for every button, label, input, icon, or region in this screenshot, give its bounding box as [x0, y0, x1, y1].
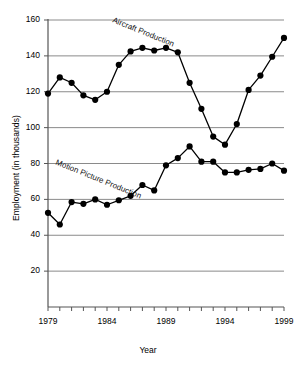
data-point-marker [57, 74, 63, 80]
data-point-marker [175, 49, 181, 55]
data-point-marker [246, 87, 252, 93]
data-point-marker [45, 90, 51, 96]
data-point-marker [175, 155, 181, 161]
y-tick-label: 40 [14, 229, 40, 239]
data-point-marker [210, 133, 216, 139]
y-tick-label: 160 [14, 14, 40, 24]
series-annotations-group: Aircraft ProductionMotion Picture Produc… [54, 16, 175, 201]
data-point-marker [92, 196, 98, 202]
data-point-marker [116, 62, 122, 68]
data-point-marker [281, 35, 287, 41]
data-point-marker [57, 221, 63, 227]
data-point-marker [151, 187, 157, 193]
data-point-marker [222, 142, 228, 148]
series-label-motion-picture-production: Motion Picture Production [54, 158, 142, 201]
data-point-marker [163, 162, 169, 168]
data-point-marker [139, 45, 145, 51]
data-point-marker [222, 169, 228, 175]
x-tick-label: 1989 [146, 316, 186, 326]
series-line [48, 146, 284, 224]
data-point-marker [69, 80, 75, 86]
data-point-marker [128, 48, 134, 54]
data-point-marker [80, 92, 86, 98]
x-axis-title: Year [0, 345, 296, 355]
data-point-marker [80, 201, 86, 207]
gridlines-group [48, 20, 284, 271]
data-point-marker [104, 89, 110, 95]
data-point-marker [257, 73, 263, 79]
x-tick-label: 1979 [28, 316, 68, 326]
data-point-marker [269, 54, 275, 60]
x-tick-label: 1999 [264, 316, 296, 326]
data-point-marker [210, 159, 216, 165]
data-point-marker [92, 97, 98, 103]
y-tick-label: 100 [14, 122, 40, 132]
data-point-marker [269, 160, 275, 166]
data-point-marker [257, 166, 263, 172]
data-point-marker [45, 210, 51, 216]
data-point-marker [234, 169, 240, 175]
series-motion-picture-production [45, 143, 287, 227]
data-point-marker [139, 182, 145, 188]
data-point-marker [198, 159, 204, 165]
data-point-marker [246, 167, 252, 173]
data-point-marker [151, 47, 157, 53]
data-point-marker [187, 80, 193, 86]
chart-figure: Employment (in thousands) Year 160140120… [0, 0, 296, 370]
data-point-marker [69, 199, 75, 205]
y-tick-label: 120 [14, 86, 40, 96]
y-tick-label: 60 [14, 193, 40, 203]
x-tick-label: 1984 [87, 316, 127, 326]
data-point-marker [281, 168, 287, 174]
data-point-marker [187, 143, 193, 149]
data-series-group [45, 35, 287, 228]
data-point-marker [234, 121, 240, 127]
chart-plot-area: Aircraft ProductionMotion Picture Produc… [0, 0, 296, 370]
data-point-marker [104, 202, 110, 208]
y-tick-label: 140 [14, 50, 40, 60]
y-tick-label: 80 [14, 158, 40, 168]
y-tick-label: 20 [14, 265, 40, 275]
x-tick-label: 1994 [205, 316, 245, 326]
data-point-marker [198, 106, 204, 112]
x-tickmarks-group [48, 307, 284, 311]
data-point-marker [116, 197, 122, 203]
